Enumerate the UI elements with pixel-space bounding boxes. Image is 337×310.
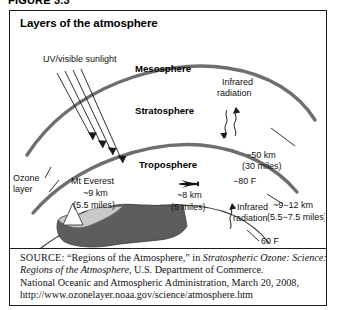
figure-container: FIGURE 3.3 Layers of the atmosphere (0, 0, 337, 310)
source-line-2-plain: , U.S. Department of Commerce. (129, 264, 264, 275)
source-line-1-plain: “Regions of the Atmosphere,” in (64, 252, 202, 263)
ozone-layer-callout: Ozone layer (13, 167, 59, 194)
sunlight-ray-3 (73, 70, 117, 155)
source-divider-rule (10, 248, 326, 249)
everest-name-label: Mt Everest (71, 176, 115, 186)
aircraft-altitude-miles: (5 miles) (171, 202, 206, 212)
infrared-lower-label-line1: Infrared (237, 202, 268, 212)
tropopause-temperature: −80 F (233, 176, 257, 186)
infrared-wavy-down-arrow (220, 110, 227, 139)
source-label: SOURCE: (20, 252, 64, 263)
source-note: SOURCE: “Regions of the Atmosphere,” in … (20, 252, 320, 302)
ozone-label-line2: layer (13, 184, 33, 194)
mesopause-leader-line (271, 128, 295, 146)
uv-sunlight-label: UV/visible sunlight (43, 54, 117, 64)
figure-number-label: FIGURE 3.3 (8, 0, 70, 6)
airplane-icon (179, 180, 200, 188)
sunlight-ray-1 (57, 73, 97, 140)
troposphere-label: Troposphere (139, 159, 197, 170)
source-line-2: Regions of the Atmosphere, U.S. Departme… (20, 264, 320, 276)
source-line-3: National Oceanic and Atmospheric Adminis… (20, 277, 320, 289)
everest-altitude-km: ~9 km (83, 188, 108, 198)
source-line-1: SOURCE: “Regions of the Atmosphere,” in … (20, 252, 320, 264)
stratosphere-label: Stratosphere (135, 105, 194, 116)
ozone-leader-line-1 (45, 167, 51, 178)
atmosphere-diagram: UV/visible sunlight Mesosphere Stratosph… (11, 12, 325, 252)
source-line-1-italic: Stratospheric Ozone: Science: (203, 252, 327, 263)
tropopause-thickness-km: ~9−12 km (273, 200, 313, 210)
ozone-label-line1: Ozone (13, 173, 40, 183)
infrared-lower-label-line2: radiation (233, 213, 268, 223)
surface-temp-leader-line (247, 230, 259, 241)
everest-altitude-miles: (5.5 miles) (73, 200, 115, 210)
source-url: http://www.ozonelayer.noaa.gov/science/a… (20, 289, 320, 301)
infrared-radiation-upper-group: Infrared radiation (217, 77, 253, 139)
mesopause-altitude-km: ~50 km (246, 150, 276, 160)
tropopause-thickness-miles: (5.5−7.5 miles) (267, 212, 325, 222)
mesopause-altitude-miles: (30 miles) (242, 161, 282, 171)
aircraft-altitude-km: ~8 km (177, 190, 202, 200)
mesosphere-label: Mesosphere (135, 63, 191, 74)
source-line-2-italic: Regions of the Atmosphere (20, 264, 129, 275)
infrared-upper-label-line1: Infrared (222, 77, 253, 87)
infrared-upper-label-line2: radiation (217, 88, 252, 98)
infrared-wavy-up-arrow (233, 107, 240, 136)
infrared-radiation-lower-group: Infrared radiation (229, 202, 268, 229)
surface-temperature: 60 F (261, 236, 280, 246)
